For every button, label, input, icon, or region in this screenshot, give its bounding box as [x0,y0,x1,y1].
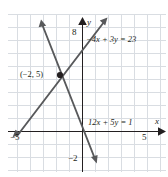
y-axis-label: y [87,18,91,27]
x-tick-label-minus5: −5 [10,133,20,142]
x-axis-label: x [155,117,159,126]
y-tick-label-minus2: −2 [68,154,78,163]
intersection-point-marker [57,72,63,78]
equation-label-line2: 12x + 5y = 1 [88,118,133,127]
y-tick-label-8: 8 [72,28,77,37]
equation-label-line1: −4x + 3y = 23 [86,35,136,44]
intersection-point-label: (−2, 5) [20,70,43,79]
graph-figure: y x 8 −2 −5 5 −4x + 3y = 23 12x + 5y = 1… [0,0,168,177]
x-tick-label-5: 5 [142,133,147,142]
graph-canvas [0,0,168,177]
